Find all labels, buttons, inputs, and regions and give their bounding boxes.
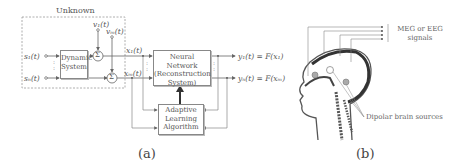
svg-text::: : xyxy=(146,65,148,72)
head-illustration xyxy=(300,24,388,140)
meg-eeg-line2: signals xyxy=(390,34,450,43)
system-label: System xyxy=(61,63,87,72)
caption-b: (b) xyxy=(356,146,374,161)
svg-text::: : xyxy=(53,64,55,71)
nn-title: Neural Network xyxy=(154,53,210,70)
sum-symbol-2: Σ xyxy=(109,73,114,81)
mixture-xm-label: xₘ(t) xyxy=(124,69,142,78)
adaptive-label: Adaptive xyxy=(159,106,203,115)
unknown-label: Unknown xyxy=(56,6,95,15)
noise-vm-label: vₘ(t) xyxy=(106,27,124,36)
caption-a: (a) xyxy=(138,146,156,161)
nn-subtitle-1: (Reconstruction xyxy=(154,70,210,79)
output-yn-label: yₙ(t) = F(xₘ) xyxy=(238,74,285,83)
input-s1-label: s₁(t) xyxy=(24,52,40,61)
mixture-x1-label: x₁(t) xyxy=(126,46,142,55)
svg-text::: : xyxy=(213,65,215,72)
meg-eeg-label: MEG or EEG signals xyxy=(390,25,450,43)
dynamic-label: Dynamic xyxy=(61,54,87,63)
nn-subtitle-2: System) xyxy=(154,79,210,88)
sum-symbol-1: Σ xyxy=(95,51,100,59)
algorithm-label: Algorithm xyxy=(159,123,203,132)
output-y1-label: y₁(t) = F(x₁) xyxy=(238,52,283,61)
neural-network-block: Neural Network (Reconstruction System) xyxy=(153,50,211,86)
dipolar-sources-label: Dipolar brain sources xyxy=(366,113,443,122)
meg-eeg-line1: MEG or EEG xyxy=(390,25,450,34)
dynamic-system-block: Dynamic System xyxy=(60,50,88,79)
adaptive-learning-block: Adaptive Learning Algorithm xyxy=(158,104,204,135)
input-sn-label: sₙ(t) xyxy=(24,74,40,83)
learning-label: Learning xyxy=(159,115,203,124)
